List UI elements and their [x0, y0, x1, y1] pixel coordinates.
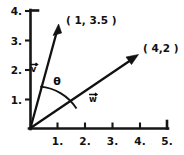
x-axis-tick-labels: 1. 2. 3. 4. 5.	[52, 135, 173, 147]
axes-group	[29, 10, 168, 129]
plot-canvas: 1. 2. 3. 4. 1. 2. 3. 4. 5. ( 1, 3.5 )	[0, 0, 184, 155]
point-label-v: ( 1, 3.5 )	[66, 14, 116, 26]
y-tick-label-3: 3.	[11, 35, 22, 47]
y-tick-label-2: 2.	[11, 64, 22, 76]
y-tick-label-1: 1.	[11, 94, 22, 106]
x-tick-label-3: 3.	[107, 135, 118, 147]
angle-theta-label: θ	[53, 75, 61, 88]
y-axis-tick-labels: 1. 2. 3. 4.	[11, 5, 22, 106]
vector-v-arrowhead	[53, 24, 62, 36]
y-tick-label-4: 4.	[11, 5, 22, 17]
vector-v-label-group: v	[30, 63, 38, 74]
x-tick-label-5: 5.	[161, 135, 172, 147]
x-tick-label-2: 2.	[79, 135, 90, 147]
angle-arc	[40, 87, 76, 109]
vector-w-label-group: w	[89, 93, 97, 104]
angle-arc-group	[40, 87, 76, 109]
x-tick-label-1: 1.	[52, 135, 63, 147]
point-label-w: ( 4,2 )	[143, 42, 179, 54]
x-tick-label-4: 4.	[134, 135, 145, 147]
vector-angle-figure: 1. 2. 3. 4. 1. 2. 3. 4. 5. ( 1, 3.5 )	[0, 0, 184, 155]
